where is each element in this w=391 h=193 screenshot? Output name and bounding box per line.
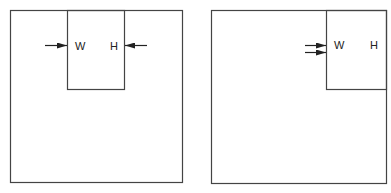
- right-label-h: H: [370, 39, 378, 51]
- diagram-canvas: W H W H: [0, 0, 391, 193]
- left-panel: W H: [11, 11, 183, 183]
- right-outer-box: [212, 11, 387, 184]
- left-outer-box: [11, 11, 183, 183]
- right-label-w: W: [334, 39, 345, 51]
- left-label-w: W: [75, 40, 86, 52]
- right-panel: W H: [212, 11, 387, 184]
- left-label-h: H: [110, 40, 118, 52]
